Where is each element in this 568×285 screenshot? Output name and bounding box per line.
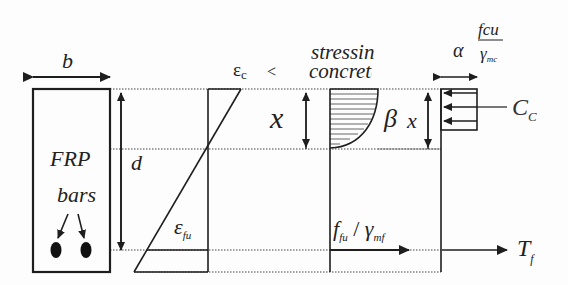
width-label: b	[62, 50, 73, 72]
alpha-label: α	[453, 40, 464, 60]
frp-design-stress-label: ffu / γmf	[333, 218, 384, 243]
concrete-strain-label: εc	[233, 60, 247, 81]
bar-pointer-right	[78, 214, 84, 238]
compression-force-label: CC	[512, 95, 537, 123]
frp-bar-right	[81, 242, 92, 258]
beta-label: β	[384, 106, 397, 132]
strain-diagram	[134, 89, 241, 272]
frp-bar-left	[51, 242, 62, 258]
stress-heading-line1: stressin	[311, 42, 374, 63]
fcu-numerator: fcu	[478, 21, 499, 38]
cross-section-rect	[33, 89, 110, 272]
diagram-canvas: b FRP bars d εc < εfu x stressin concret…	[0, 0, 568, 285]
neutral-axis-label: x	[270, 103, 283, 133]
bar-pointer-left	[58, 214, 68, 238]
material-label: FRP	[50, 148, 90, 170]
bars-label: bars	[57, 184, 96, 206]
depth-label: d	[131, 152, 142, 174]
strain-comparison: <	[267, 64, 276, 80]
gamma-mc-denominator: γmc	[480, 45, 497, 64]
equivalent-stress-block	[441, 89, 507, 272]
block-depth-label: x	[407, 110, 417, 132]
stress-block-parabolic	[330, 89, 378, 272]
frp-strain-label: εfu	[174, 216, 191, 241]
tension-force-label: Tf	[517, 236, 534, 265]
stress-heading-line2: concrete	[309, 61, 372, 82]
diagram-graphics	[0, 0, 568, 285]
